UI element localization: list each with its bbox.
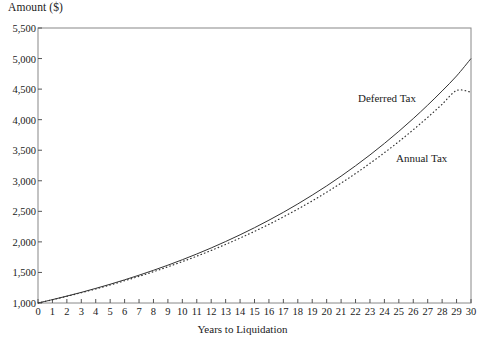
x-tick-label: 20 [321, 306, 332, 317]
plot-frame [38, 28, 471, 303]
x-tick-label: 1 [50, 306, 55, 317]
x-tick-label: 4 [93, 306, 98, 317]
x-tick-label: 24 [379, 306, 390, 317]
x-tick-label: 27 [422, 306, 433, 317]
x-tick-label: 29 [451, 306, 462, 317]
x-tick-label: 17 [278, 306, 289, 317]
series-label-annual-tax: Annual Tax [396, 152, 447, 164]
series-line-annual-tax [38, 90, 471, 303]
x-tick-label: 30 [466, 306, 477, 317]
x-tick-label: 7 [136, 306, 141, 317]
plot-area [0, 0, 485, 343]
x-tick-label: 28 [437, 306, 448, 317]
x-tick-label: 15 [249, 306, 260, 317]
x-tick-label: 13 [220, 306, 231, 317]
x-axis-tick-marks [38, 299, 471, 303]
x-tick-label: 8 [151, 306, 156, 317]
x-tick-label: 23 [365, 306, 376, 317]
x-axis-title: Years to Liquidation [0, 323, 485, 335]
x-tick-label: 2 [64, 306, 69, 317]
x-tick-label: 19 [307, 306, 318, 317]
x-tick-label: 21 [336, 306, 347, 317]
x-tick-label: 12 [206, 306, 217, 317]
x-tick-label: 0 [35, 306, 40, 317]
x-tick-label: 16 [264, 306, 275, 317]
x-tick-label: 22 [350, 306, 361, 317]
x-tick-label: 14 [235, 306, 246, 317]
x-tick-label: 5 [108, 306, 113, 317]
x-tick-label: 25 [394, 306, 405, 317]
x-tick-label: 26 [408, 306, 419, 317]
x-tick-label: 3 [79, 306, 84, 317]
series-label-deferred-tax: Deferred Tax [358, 92, 416, 104]
x-tick-label: 18 [293, 306, 304, 317]
x-tick-label: 6 [122, 306, 127, 317]
x-tick-label: 10 [177, 306, 188, 317]
y-axis-tick-marks [38, 28, 42, 303]
chart-container: Amount ($) 1,0001,5002,0002,5003,0003,50… [0, 0, 485, 343]
x-tick-label: 11 [192, 306, 202, 317]
x-tick-label: 9 [165, 306, 170, 317]
